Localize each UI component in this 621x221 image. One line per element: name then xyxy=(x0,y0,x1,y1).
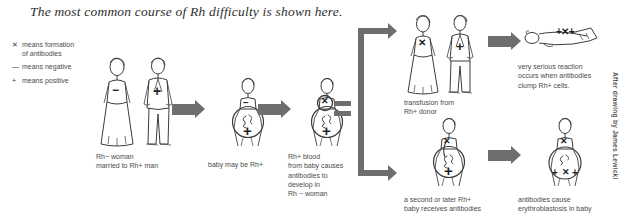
page-title: The most common course of Rh difficulty … xyxy=(30,4,343,20)
second-baby-mother-antibody-badge: ✕ xyxy=(443,137,451,146)
baby-rh-positive-badge: + xyxy=(243,123,252,138)
erythroblastosis-mark-left: + xyxy=(552,168,558,178)
caption-couple: Rh− woman married to Rh+ man xyxy=(96,152,158,171)
equals-bar-bottom xyxy=(334,111,351,116)
antibody-cross-icon: ✕ xyxy=(12,40,22,49)
mother-rh-negative-badge: − xyxy=(243,98,249,108)
erythroblastosis-mark-right: + xyxy=(572,168,578,178)
woman-rh-negative-badge: − xyxy=(112,84,119,96)
legend-item-antibodies: ✕ means formation xyxy=(12,40,74,49)
erythroblastosis-mark-center: ✕ xyxy=(562,168,570,177)
figure-second-baby: ✕ + xyxy=(414,118,484,190)
legend-item-antibodies-continuation: of antibodies xyxy=(22,49,62,58)
arrow-transfusion-to-reaction xyxy=(488,36,512,47)
mother-antibody-badge: ✕ xyxy=(321,97,329,106)
equals-sign xyxy=(334,101,351,116)
figure-transfusion: ✕ + xyxy=(403,14,483,96)
branch-top-arrowhead xyxy=(388,23,397,39)
transfusion-woman-antibody-badge: ✕ xyxy=(418,38,426,48)
caption-erythroblastosis: antibodies cause erythroblastosis in bab… xyxy=(518,195,592,214)
arrow-second-baby-to-erythroblastosis xyxy=(488,150,512,161)
equals-bar-top xyxy=(334,101,351,106)
caption-pregnant-first: baby may be Rh+ xyxy=(208,160,263,169)
branch-vertical-bar xyxy=(358,28,364,176)
transfusion-donor-badge: + xyxy=(456,40,464,53)
figure-reaction: +✕+ xyxy=(523,22,599,56)
second-baby-rh-positive-badge: + xyxy=(444,163,453,178)
legend-item-negative: — means negative xyxy=(12,62,74,71)
branch-top-arm xyxy=(358,28,388,34)
legend-item-negative-label: means negative xyxy=(22,62,71,71)
legend-item-antibodies-label: means formation xyxy=(22,40,74,49)
legend-item-antibodies-cont: of antibodies xyxy=(12,49,74,58)
rh-difficulty-diagram: The most common course of Rh difficulty … xyxy=(0,0,621,221)
plus-icon: + xyxy=(12,76,22,85)
erythroblastosis-mother-antibody-badge: ✕ xyxy=(560,137,568,146)
arrow-pregnant-to-antibodies xyxy=(258,104,282,115)
reaction-clump-marks: +✕+ xyxy=(556,27,574,37)
figure-erythroblastosis: ✕ + ✕ + xyxy=(530,118,600,190)
figure-couple: − + xyxy=(96,56,186,148)
caption-pregnant-antibodies: Rh+ blood from baby causes antibodies to… xyxy=(288,152,343,198)
figure-pregnant-antibodies: ✕ + xyxy=(292,78,362,150)
arrow-couple-to-pregnant xyxy=(172,104,196,115)
minus-icon: — xyxy=(12,62,22,71)
caption-reaction: very serious reaction occurs when antibo… xyxy=(518,62,591,90)
baby-rh-positive-badge-2: + xyxy=(322,123,331,138)
legend-item-positive-label: means positive xyxy=(22,76,69,85)
branch-connector xyxy=(358,28,394,176)
man-rh-positive-badge: + xyxy=(153,84,161,98)
branch-bottom-arrowhead xyxy=(388,165,397,181)
artist-credit: After drawing by James Lewicki xyxy=(612,72,619,180)
legend-item-positive: + means positive xyxy=(12,76,74,85)
legend: ✕ means formation of antibodies — means … xyxy=(12,40,74,85)
caption-second-baby: a second or later Rh+ baby receives anti… xyxy=(404,195,481,214)
branch-bottom-arm xyxy=(358,170,388,176)
caption-transfusion: transfusion from Rh+ donor xyxy=(404,98,454,117)
